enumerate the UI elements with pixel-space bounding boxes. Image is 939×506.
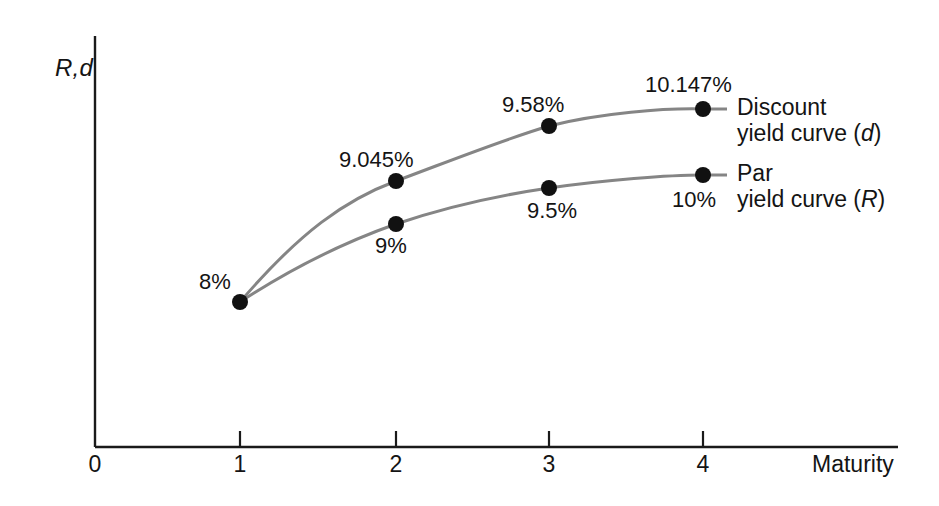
discount-series-label-line2: yield curve (d)	[737, 121, 881, 147]
value-label-start: 8%	[199, 270, 231, 295]
yield-curve-figure: R,d 0 1 2 3 4 Maturity 8% 9.045% 9.58% 1…	[0, 0, 939, 506]
value-label-par-4: 10%	[672, 188, 716, 213]
value-label-discount-2: 9.045%	[339, 148, 414, 173]
data-point-par-2	[388, 216, 404, 232]
par-series-label-suffix: )	[878, 186, 886, 212]
data-point-discount-3	[541, 118, 557, 134]
par-series-label-line1: Par	[737, 161, 885, 187]
y-axis-title: R,d	[55, 55, 93, 82]
chart-canvas	[0, 0, 939, 506]
x-tick-label-2: 2	[390, 452, 403, 478]
value-label-par-3: 9.5%	[527, 199, 577, 224]
discount-series-label: Discount yield curve (d)	[737, 95, 881, 147]
x-tick-label-3: 3	[543, 452, 556, 478]
value-label-discount-4: 10.147%	[645, 73, 732, 98]
par-series-label-line2: yield curve (R)	[737, 187, 885, 213]
data-point-par-3	[541, 180, 557, 196]
data-point-discount-2	[388, 173, 404, 189]
par-series-label-prefix: yield curve (	[737, 186, 861, 212]
discount-series-label-line1: Discount	[737, 95, 881, 121]
x-tick-label-0: 0	[89, 452, 102, 478]
par-yield-curve-path	[240, 175, 703, 302]
data-point-par-4	[695, 167, 711, 183]
par-series-symbol: R	[861, 186, 878, 212]
discount-series-label-prefix: yield curve (	[737, 120, 861, 146]
discount-series-label-suffix: )	[874, 120, 882, 146]
x-axis-title: Maturity	[812, 452, 894, 478]
data-point-discount-4	[695, 101, 711, 117]
data-point-start	[232, 294, 248, 310]
value-label-par-2: 9%	[375, 234, 407, 259]
x-tick-label-4: 4	[697, 452, 710, 478]
x-tick-label-1: 1	[234, 452, 247, 478]
par-series-label: Par yield curve (R)	[737, 161, 885, 213]
discount-yield-curve-path	[240, 109, 703, 302]
value-label-discount-3: 9.58%	[502, 93, 564, 118]
discount-series-symbol: d	[861, 120, 874, 146]
